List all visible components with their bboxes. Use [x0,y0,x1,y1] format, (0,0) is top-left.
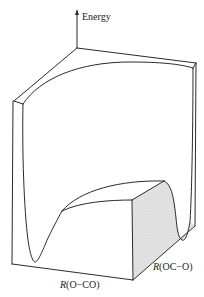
potential-energy-surface-diagram: Energy R(O−CO) R(OC−O) [0,0,204,297]
side-axis-paren: (OC−O) [159,261,192,273]
front-axis-symbol: R [59,279,66,290]
front-axis-label: R(O−CO) [59,279,100,291]
energy-axis [75,9,79,48]
front-axis-paren: (O−CO) [66,279,99,291]
arrow-up-icon [75,9,79,15]
side-axis-label: R(OC−O) [152,261,193,273]
side-axis-symbol: R [152,261,159,272]
energy-axis-label: Energy [82,11,111,22]
